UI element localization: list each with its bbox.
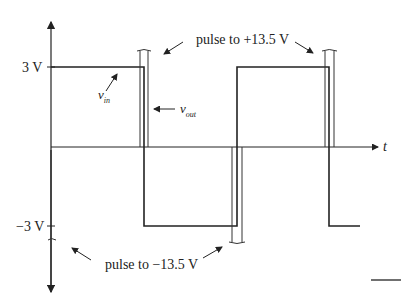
- vin-arrow: [106, 74, 117, 91]
- tick-label-neg3v: −3 V: [16, 219, 44, 234]
- pulse-positive-label: pulse to +13.5 V: [196, 32, 289, 47]
- pulse-negative-arrow-left: [72, 248, 91, 260]
- vin-label: vin: [98, 87, 110, 105]
- pulse-positive-arrow-right: [295, 42, 313, 53]
- pulse-negative-arrow-right: [203, 247, 222, 258]
- pulse-negative-label: pulse to −13.5 V: [105, 257, 198, 272]
- tick-label-3v: 3 V: [22, 60, 42, 75]
- waveform-diagram: t 3 V −3 V vin vout pulse to +13.5 V pul…: [0, 0, 402, 299]
- t-axis-label: t: [383, 139, 388, 154]
- vout-label: vout: [180, 101, 197, 119]
- pulse-positive-arrow-left: [164, 42, 183, 54]
